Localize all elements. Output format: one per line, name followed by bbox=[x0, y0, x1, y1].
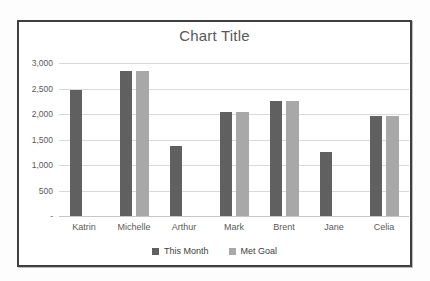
x-category-label-jane: Jane bbox=[309, 222, 359, 232]
legend-marker-icon-met-goal bbox=[229, 248, 236, 255]
x-category-label-celia: Celia bbox=[359, 222, 409, 232]
legend-marker-icon-this-month bbox=[152, 248, 159, 255]
y-tick-label: - bbox=[19, 211, 53, 221]
bar-this-month-brent[interactable] bbox=[270, 101, 283, 216]
bar-this-month-celia[interactable] bbox=[370, 116, 383, 217]
x-category-label-brent: Brent bbox=[259, 222, 309, 232]
bar-group-michelle bbox=[109, 63, 159, 216]
bar-met-goal-celia[interactable] bbox=[386, 116, 399, 217]
bar-group-mark bbox=[209, 63, 259, 216]
bar-this-month-jane[interactable] bbox=[320, 152, 333, 216]
legend-label-met-goal: Met Goal bbox=[241, 246, 278, 256]
bar-group-jane bbox=[309, 63, 359, 216]
bar-series-container bbox=[59, 63, 409, 216]
gridline bbox=[59, 216, 409, 217]
bar-this-month-katrin[interactable] bbox=[70, 90, 83, 216]
y-tick-label: 1,500 bbox=[19, 135, 53, 145]
bar-group-arthur bbox=[159, 63, 209, 216]
legend-label-this-month: This Month bbox=[164, 246, 209, 256]
chart-card[interactable]: Chart Title -5001,0001,5002,0002,5003,00… bbox=[17, 20, 412, 267]
x-category-label-katrin: Katrin bbox=[59, 222, 109, 232]
legend-item-this-month[interactable]: This Month bbox=[152, 246, 209, 256]
x-category-label-michelle: Michelle bbox=[109, 222, 159, 232]
bar-group-celia bbox=[359, 63, 409, 216]
plot-area[interactable]: -5001,0001,5002,0002,5003,000 bbox=[59, 63, 409, 216]
bar-met-goal-mark[interactable] bbox=[236, 112, 249, 217]
bar-this-month-mark[interactable] bbox=[220, 112, 233, 217]
bar-this-month-arthur[interactable] bbox=[170, 146, 183, 216]
bar-met-goal-brent[interactable] bbox=[286, 101, 299, 216]
legend[interactable]: This MonthMet Goal bbox=[19, 246, 410, 256]
bar-met-goal-michelle[interactable] bbox=[136, 71, 149, 216]
bar-group-katrin bbox=[59, 63, 109, 216]
chart-title[interactable]: Chart Title bbox=[19, 27, 410, 44]
x-axis[interactable]: KatrinMichelleArthurMarkBrentJaneCelia bbox=[59, 222, 409, 232]
y-tick-label: 500 bbox=[19, 186, 53, 196]
bar-group-brent bbox=[259, 63, 309, 216]
x-category-label-arthur: Arthur bbox=[159, 222, 209, 232]
legend-item-met-goal[interactable]: Met Goal bbox=[229, 246, 278, 256]
y-tick-label: 2,500 bbox=[19, 84, 53, 94]
y-tick-label: 3,000 bbox=[19, 58, 53, 68]
y-tick-label: 2,000 bbox=[19, 109, 53, 119]
x-category-label-mark: Mark bbox=[209, 222, 259, 232]
bar-this-month-michelle[interactable] bbox=[120, 71, 133, 216]
y-tick-label: 1,000 bbox=[19, 160, 53, 170]
